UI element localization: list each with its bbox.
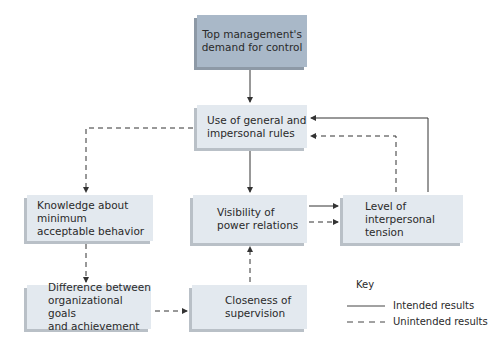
key-intended-label: Intended results [393,299,474,312]
node-label: Level of interpersonal tension [365,200,463,239]
node-top-management-demand: Top management's demand for control [197,15,307,67]
node-label: Closeness of supervision [225,294,291,320]
node-closeness: Closeness of supervision [192,285,307,329]
node-label: Knowledge about minimum acceptable behav… [37,199,153,238]
node-label: Visibility of power relations [217,206,298,232]
arrow-rules-to-knowledge [86,128,193,192]
node-label: Difference between organizational goals … [48,281,151,333]
arrow-tension-to-rules-solid [311,118,428,192]
node-label: Use of general and impersonal rules [207,114,306,140]
node-visibility: Visibility of power relations [193,195,307,243]
node-label: Top management's demand for control [202,28,303,54]
node-general-rules: Use of general and impersonal rules [197,105,307,148]
key-title: Key [356,278,374,291]
node-tension: Level of interpersonal tension [343,195,463,243]
node-knowledge: Knowledge about minimum acceptable behav… [27,195,153,241]
arrow-tension-to-rules-dashed [311,136,396,192]
key-unintended-label: Unintended results [393,315,488,328]
node-difference: Difference between organizational goals … [27,285,151,329]
